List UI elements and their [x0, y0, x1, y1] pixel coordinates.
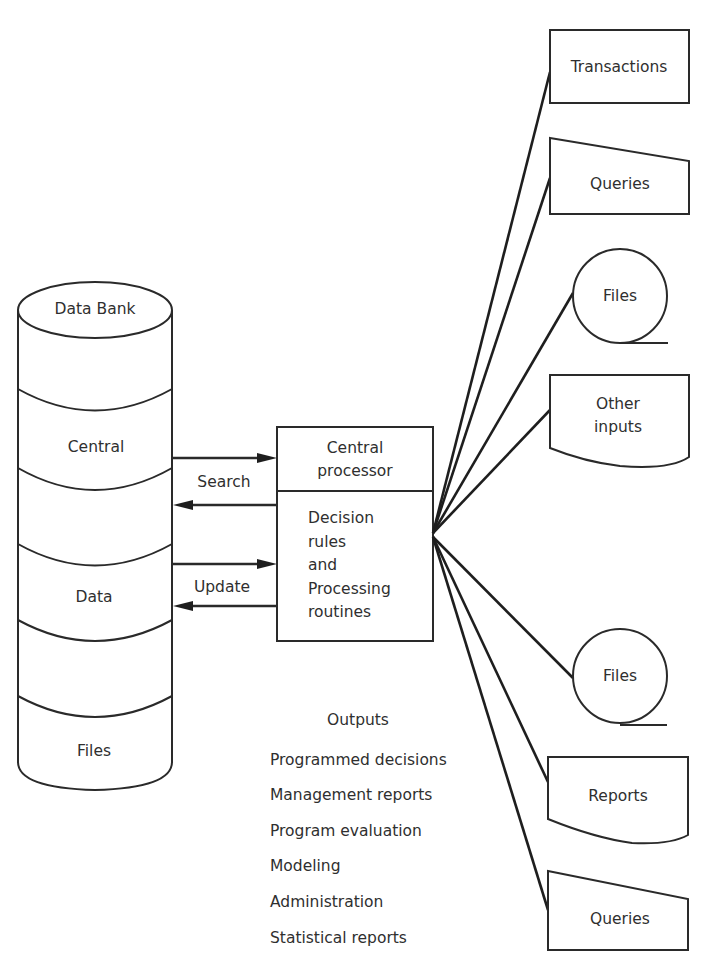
output-files: Files: [573, 629, 667, 725]
transactions-label: Transactions: [570, 58, 668, 76]
update-flow: Update: [172, 559, 277, 611]
arrowhead-right-icon: [257, 559, 277, 569]
outputs-item: Statistical reports: [270, 929, 407, 947]
outputs-item: Modeling: [270, 857, 341, 875]
update-label: Update: [194, 578, 250, 596]
input-transactions: Transactions: [550, 30, 689, 103]
queries-in-label: Queries: [590, 175, 650, 193]
connector-reports: [433, 537, 548, 782]
input-queries: Queries: [550, 138, 689, 214]
search-flow: Search: [172, 453, 277, 510]
connector-transactions: [433, 72, 550, 533]
processor-body-line-2: rules: [308, 533, 346, 551]
processor-header-line-2: processor: [317, 462, 393, 480]
processor-body-line-4: Processing: [308, 580, 391, 598]
output-reports: Reports: [548, 757, 688, 843]
search-label: Search: [197, 473, 250, 491]
connector-queries-in: [433, 178, 550, 533]
reports-label: Reports: [588, 787, 647, 805]
outputs-item: Programmed decisions: [270, 751, 447, 769]
connector-queries-out: [433, 537, 548, 910]
input-files: Files: [573, 249, 668, 343]
processor-body-line-3: and: [308, 556, 337, 574]
output-queries: Queries: [548, 871, 688, 950]
outputs-item: Program evaluation: [270, 822, 422, 840]
arrowhead-left-icon: [173, 601, 193, 611]
outputs-item: Administration: [270, 893, 383, 911]
outputs-title: Outputs: [327, 711, 389, 729]
processor-body-line-1: Decision: [308, 509, 374, 527]
arrowhead-right-icon: [257, 453, 277, 463]
other-inputs-line-2: inputs: [594, 418, 642, 436]
data-bank-title: Data Bank: [55, 300, 136, 318]
segment-label-central: Central: [68, 438, 124, 456]
segment-label-data: Data: [75, 588, 112, 606]
data-bank-system-diagram: Data Bank Central Data Files Search Upda…: [0, 0, 715, 970]
queries-out-label: Queries: [590, 910, 650, 928]
other-inputs-line-1: Other: [596, 395, 641, 413]
outputs-item: Management reports: [270, 786, 432, 804]
processor-body-line-5: routines: [308, 603, 371, 621]
files-in-label: Files: [603, 287, 637, 305]
files-out-label: Files: [603, 667, 637, 685]
arrowhead-left-icon: [173, 500, 193, 510]
data-bank-cylinder: Data Bank Central Data Files: [18, 282, 172, 790]
processor-header-line-1: Central: [327, 439, 383, 457]
connector-other-inputs: [433, 410, 550, 533]
segment-label-files: Files: [77, 742, 111, 760]
central-processor-box: Central processor Decision rules and Pro…: [277, 427, 433, 641]
outputs-list: Outputs Programmed decisions Management …: [270, 711, 447, 947]
input-other: Other inputs: [550, 375, 689, 467]
